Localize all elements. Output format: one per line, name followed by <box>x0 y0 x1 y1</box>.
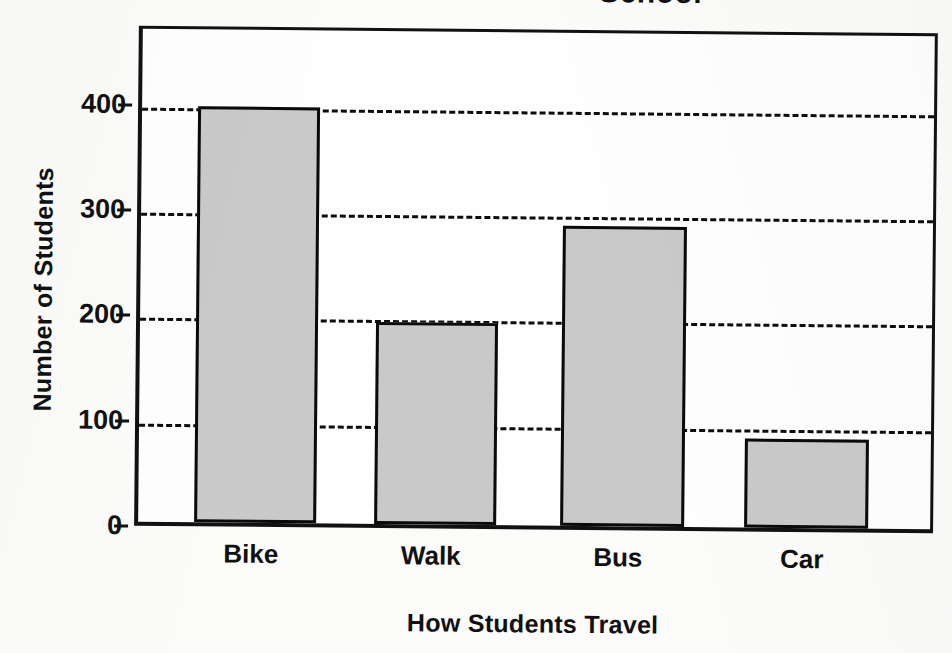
y-tick-label-400: 400 <box>16 88 126 120</box>
y-tick-label-300: 300 <box>15 193 125 225</box>
y-tick-mark-100 <box>115 419 129 422</box>
y-tick-mark-400 <box>118 103 132 106</box>
chart-title: School <box>599 0 899 12</box>
y-tick-label-200: 200 <box>14 298 124 330</box>
plot-area <box>134 26 938 534</box>
y-tick-mark-0 <box>114 524 128 527</box>
bar-bus <box>560 226 687 527</box>
y-axis-ticks: 0100200300400 <box>0 24 127 525</box>
x-tick-label-bus: Bus <box>593 542 642 573</box>
y-tick-label-0: 0 <box>12 509 122 541</box>
bar-car <box>744 438 869 529</box>
x-tick-label-car: Car <box>780 544 824 575</box>
y-tick-mark-300 <box>117 209 131 212</box>
x-axis-title: How Students Travel <box>133 606 932 643</box>
y-tick-label-100: 100 <box>13 404 123 436</box>
bar-bike <box>194 106 320 523</box>
y-tick-mark-200 <box>116 314 130 317</box>
x-tick-label-walk: Walk <box>401 540 461 572</box>
bar-chart-figure: School Number of Students 0100200300400 … <box>0 0 952 653</box>
x-axis-ticks: BikeWalkBusCar <box>134 538 933 588</box>
x-tick-label-bike: Bike <box>223 538 278 570</box>
bar-walk <box>374 322 498 525</box>
